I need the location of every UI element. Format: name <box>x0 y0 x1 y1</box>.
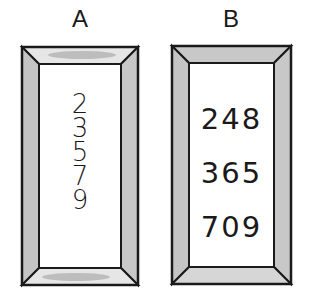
frame-b-label: B <box>211 6 251 32</box>
frame-b-number: 709 <box>189 200 274 254</box>
frame-a-numbers: 2 3 5 7 9 <box>39 92 121 212</box>
frame-b-number: 248 <box>189 92 274 146</box>
diagram-canvas: A B 2 3 5 7 9 248 365 709 <box>0 0 309 304</box>
frame-b-number: 365 <box>189 146 274 200</box>
frame-a-label: A <box>60 6 100 32</box>
frame-a-number: 9 <box>39 188 121 212</box>
frame-b-numbers: 248 365 709 <box>189 92 274 254</box>
